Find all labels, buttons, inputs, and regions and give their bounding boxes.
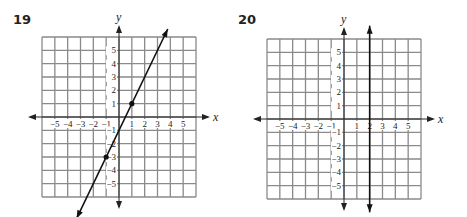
x-tick-label: −3	[301, 121, 311, 131]
graph-20: xy−5−4−3−2−112345−5−4−3−2−112345	[253, 12, 444, 212]
x-axis-label: x	[437, 112, 444, 126]
x-tick-label: 5	[181, 119, 186, 129]
x-axis-arrow-right-icon	[202, 114, 210, 120]
y-tick-label: −1	[106, 125, 116, 135]
graph-19: xy−5−4−3−2−112345−5−4−3−2−112345	[28, 10, 219, 217]
y-tick-label: −2	[331, 141, 341, 151]
y-tick-label: 2	[112, 85, 117, 95]
x-tick-label: 5	[406, 121, 411, 131]
y-axis-label: y	[115, 10, 122, 24]
x-tick-label: 1	[355, 121, 360, 131]
line-arrow-end-icon	[367, 26, 373, 34]
x-tick-label: −5	[275, 121, 285, 131]
y-tick-label: −3	[331, 154, 341, 164]
x-axis-arrow-right-icon	[427, 116, 435, 122]
y-tick-label: −1	[331, 127, 341, 137]
y-tick-label: 4	[337, 61, 342, 71]
x-axis-arrow-left-icon	[253, 116, 261, 122]
x-tick-label: −2	[314, 121, 324, 131]
y-tick-label: 1	[337, 101, 342, 111]
x-tick-label: 4	[168, 119, 173, 129]
y-axis-arrow-down-icon	[341, 203, 347, 211]
x-axis-arrow-left-icon	[28, 114, 36, 120]
x-axis-label: x	[212, 110, 219, 124]
x-tick-label: −5	[50, 119, 60, 129]
plotted-point	[104, 154, 109, 159]
x-tick-label: −3	[76, 119, 86, 129]
y-axis-label: y	[340, 12, 347, 26]
y-tick-label: 3	[337, 74, 342, 84]
x-tick-label: −4	[63, 119, 73, 129]
x-tick-label: 4	[393, 121, 398, 131]
x-tick-label: −4	[288, 121, 298, 131]
plotted-point	[129, 101, 134, 106]
graphs: xy−5−4−3−2−112345−5−4−3−2−112345xy−5−4−3…	[0, 0, 467, 217]
y-tick-label: −4	[106, 165, 116, 175]
x-tick-label: −2	[89, 119, 99, 129]
y-axis-arrow-up-icon	[341, 27, 347, 35]
y-tick-label: 5	[337, 47, 342, 57]
y-axis-arrow-down-icon	[116, 201, 122, 209]
y-tick-label: 1	[112, 99, 117, 109]
line-arrow-start-icon	[367, 204, 373, 212]
y-tick-label: −4	[331, 167, 341, 177]
x-tick-label: 2	[142, 119, 147, 129]
y-tick-label: 3	[112, 72, 117, 82]
y-tick-label: −5	[331, 181, 341, 191]
y-axis-arrow-up-icon	[116, 25, 122, 33]
x-tick-label: 1	[130, 119, 135, 129]
y-tick-label: 2	[337, 87, 342, 97]
x-tick-label: 3	[155, 119, 160, 129]
y-tick-label: 5	[112, 45, 117, 55]
y-tick-label: −5	[106, 179, 116, 189]
x-tick-label: 3	[380, 121, 385, 131]
y-tick-label: 4	[112, 59, 117, 69]
line-arrow-end-icon	[162, 29, 168, 38]
